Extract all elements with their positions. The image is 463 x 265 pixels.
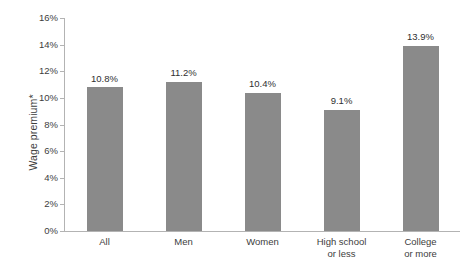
y-axis-tick-label: 4% [26,173,58,183]
x-axis-line [64,231,460,232]
y-axis-tick-label: 16% [26,13,58,23]
x-axis-category-label: Collegeor more [381,236,460,259]
bar-value-label: 11.2% [170,68,196,78]
y-axis-tick-labels: 0%2%4%6%8%10%12%14%16% [26,0,58,265]
y-axis-tick-label: 2% [26,200,58,210]
bar [166,82,202,231]
y-axis-tick-label: 0% [26,226,58,236]
bar-group: 13.9% [381,18,460,231]
x-axis-category-label-line: Women [223,236,302,248]
bar-value-label: 9.1% [331,96,353,106]
x-axis-category-label-line: or less [302,248,381,260]
bar [87,87,123,231]
y-axis-tick-mark [60,204,64,205]
bar-group: 11.2% [144,18,223,231]
y-axis-tick-label: 8% [26,120,58,130]
plot-area: 10.8%11.2%10.4%9.1%13.9% [65,18,460,231]
y-axis-tick-mark [60,71,64,72]
y-axis-tick-mark [60,151,64,152]
y-axis-tick-mark [60,45,64,46]
y-axis-tick-label: 14% [26,40,58,50]
bar-value-label: 10.8% [91,74,118,84]
x-axis-category-labels: AllMenWomenHigh schoolor lessCollegeor m… [65,236,460,265]
x-axis-category-label: Women [223,236,302,248]
x-axis-category-label: High schoolor less [302,236,381,259]
bar [245,93,281,231]
y-axis-tick-mark [60,18,64,19]
x-axis-category-label: Men [144,236,223,248]
x-axis-category-label: All [65,236,144,248]
y-axis-tick-label: 6% [26,146,58,156]
x-axis-category-label-line: or more [381,248,460,260]
x-axis-category-label-line: College [381,236,460,248]
bar-value-label: 10.4% [249,79,276,89]
bar [403,46,439,231]
y-axis-tick-label: 10% [26,93,58,103]
y-axis-tick-mark [60,231,64,232]
bar-group: 10.8% [65,18,144,231]
y-axis-tick-label: 12% [26,67,58,77]
y-axis-tick-mark [60,98,64,99]
y-axis-tick-mark [60,125,64,126]
x-axis-category-label-line: All [65,236,144,248]
bar [324,110,360,231]
bar-group: 9.1% [302,18,381,231]
x-axis-category-label-line: High school [302,236,381,248]
bar-value-label: 13.9% [407,32,434,42]
x-axis-category-label-line: Men [144,236,223,248]
bar-group: 10.4% [223,18,302,231]
y-axis-tick-mark [60,178,64,179]
bar-chart: Wage premium* 0%2%4%6%8%10%12%14%16% 10.… [0,0,463,265]
